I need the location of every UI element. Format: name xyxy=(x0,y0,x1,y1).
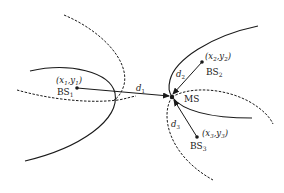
bs3-label: BS3 xyxy=(190,141,207,152)
hyperbola-left-dashed-upper xyxy=(64,15,125,100)
bs3-coord-label: (x3,y3) xyxy=(202,128,228,139)
bs1-coord-label: (x1,y1) xyxy=(56,75,82,86)
ms-point xyxy=(170,95,174,99)
bs1-label: BS1 xyxy=(57,87,74,98)
ms-label: MS xyxy=(184,94,199,104)
bs1-point xyxy=(75,86,79,90)
d3-label: d3 xyxy=(171,119,180,130)
bs3-point xyxy=(195,135,199,139)
bs2-label: BS2 xyxy=(206,67,223,78)
bs2-coord-label: (x2,y2) xyxy=(205,51,231,62)
d1-label: d1 xyxy=(136,83,145,94)
d2-label: d2 xyxy=(176,69,185,80)
distance-arrow-d1 xyxy=(77,88,169,96)
distance-arrow-d3 xyxy=(174,100,197,137)
bs2-point xyxy=(200,60,204,64)
tdoa-diagram: (x1,y1) BS1 (x2,y2) BS2 (x3,y3) BS3 MS d… xyxy=(0,0,284,193)
